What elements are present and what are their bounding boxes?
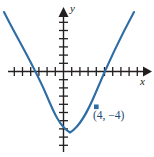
x-axis-label: x (140, 76, 145, 87)
y-axis-label: y (70, 3, 75, 14)
coordinate-plane (0, 0, 154, 157)
y-axis-arrow-icon (59, 7, 69, 17)
point-coordinate-label: (4, −4) (93, 110, 124, 122)
math-graph-figure: y x (4, −4) (0, 0, 154, 157)
